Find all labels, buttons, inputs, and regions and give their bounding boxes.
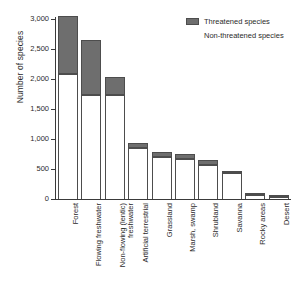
legend-label: Threatened species — [204, 17, 270, 26]
y-tick-label: 1,000 — [30, 135, 49, 143]
bar-segment-non-threatened — [222, 173, 242, 199]
bar-segment-threatened — [58, 16, 78, 74]
x-axis-label-3: Artificial terrestrial — [142, 203, 150, 263]
x-axis-label-8: Rocky areas — [259, 203, 267, 245]
bar-segment-non-threatened — [128, 148, 148, 199]
x-axis-label-6: Shrubland — [212, 203, 220, 237]
x-axis-label-line: Flowing freshwater — [95, 203, 103, 266]
bar-rocky-areas — [245, 194, 265, 199]
bar-segment-threatened — [105, 77, 125, 95]
legend-swatch-threatened-icon — [186, 18, 199, 25]
y-tick-label: 0 — [45, 195, 49, 203]
legend-label: Non-threatened species — [204, 31, 284, 40]
bar-flowing-freshwater — [81, 40, 101, 199]
bar-segment-threatened — [152, 152, 172, 157]
x-axis-label-line: Marsh, swamp — [189, 203, 197, 252]
y-axis-title: Number of species — [15, 7, 25, 127]
legend-entry-0: Threatened species — [186, 14, 284, 28]
y-tick-label: 500 — [36, 165, 49, 173]
bar-segment-threatened — [222, 171, 242, 173]
bar-segment-threatened — [175, 154, 195, 159]
bar-segment-non-threatened — [81, 95, 101, 199]
x-axis-line — [55, 199, 291, 200]
bar-segment-threatened — [81, 40, 101, 95]
x-axis-label-1: Flowing freshwater — [95, 203, 103, 266]
species-by-habitat-bar-chart: Number of species 05001,0001,5002,0002,5… — [0, 0, 304, 293]
x-axis-label-2: Non-flowing (lentic)freshwater — [119, 203, 135, 267]
x-axis-label-0: Forest — [72, 203, 80, 224]
x-axis-label-line: Shrubland — [212, 203, 220, 237]
x-axis-label-5: Marsh, swamp — [189, 203, 197, 252]
chart-legend: Threatened speciesNon-threatened species — [186, 14, 284, 42]
x-axis-label-line: Rocky areas — [259, 203, 267, 245]
bar-non-flowing-lentic-freshwater — [105, 77, 125, 199]
plot-area — [55, 19, 295, 199]
bar-marsh-swamp — [175, 154, 195, 199]
x-axis-label-line: Grassland — [166, 203, 174, 237]
x-axis-label-9: Desert — [283, 203, 291, 225]
bar-segment-threatened — [128, 143, 148, 148]
legend-entry-1: Non-threatened species — [186, 28, 284, 42]
bar-segment-non-threatened — [175, 159, 195, 199]
bar-artificial-terrestrial — [128, 143, 148, 199]
y-tick-label: 2,000 — [30, 75, 49, 83]
y-tick-label: 1,500 — [30, 105, 49, 113]
bar-forest — [58, 16, 78, 199]
bar-segment-non-threatened — [245, 195, 265, 199]
bar-segment-non-threatened — [152, 157, 172, 199]
x-axis-label-line: Desert — [283, 203, 291, 225]
x-axis-label-line: Savanna — [236, 203, 244, 233]
bar-savanna — [222, 172, 242, 199]
y-tick-label: 3,000 — [30, 15, 49, 23]
legend-swatch-non-threatened-icon — [186, 32, 199, 39]
y-tick-label: 2,500 — [30, 45, 49, 53]
bar-segment-non-threatened — [198, 165, 218, 199]
bar-grassland — [152, 152, 172, 199]
bar-segment-threatened — [198, 160, 218, 165]
bar-segment-non-threatened — [105, 95, 125, 199]
bar-desert — [269, 196, 289, 199]
x-axis-label-line: Artificial terrestrial — [142, 203, 150, 263]
y-tick-mark — [51, 199, 55, 200]
x-axis-label-7: Savanna — [236, 203, 244, 233]
bar-shrubland — [198, 160, 218, 199]
x-axis-label-4: Grassland — [166, 203, 174, 237]
bar-segment-non-threatened — [269, 197, 289, 199]
bar-segment-non-threatened — [58, 74, 78, 199]
x-axis-label-line: freshwater — [127, 203, 135, 267]
x-axis-label-line: Forest — [72, 203, 80, 224]
bar-segment-threatened — [269, 195, 289, 197]
bar-segment-threatened — [245, 193, 265, 195]
